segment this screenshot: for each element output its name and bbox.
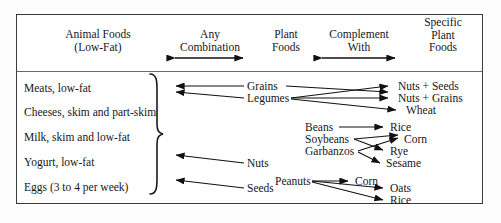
header-divider bbox=[17, 71, 482, 72]
grouping-brace bbox=[146, 72, 166, 196]
node-nuts: Nuts bbox=[247, 157, 269, 169]
node-nuts-seeds: Nuts + Seeds bbox=[398, 80, 459, 92]
node-rice-upper: Rice bbox=[390, 121, 411, 133]
list-item-yogurt: Yogurt, low-fat bbox=[24, 156, 94, 168]
node-legumes: Legumes bbox=[247, 92, 289, 104]
list-item-eggs: Eggs (3 to 4 per week) bbox=[24, 181, 128, 193]
node-seeds: Seeds bbox=[247, 182, 274, 194]
node-rye: Rye bbox=[390, 145, 408, 157]
list-item-meats: Meats, low-fat bbox=[24, 82, 91, 94]
header-plant-foods: Plant Foods bbox=[255, 28, 317, 53]
header-complement-with: Complement With bbox=[313, 28, 405, 53]
list-item-cheeses: Cheeses, skim and part-skim bbox=[24, 106, 156, 118]
protein-complementing-diagram: Animal Foods (Low-Fat) Any Combination P… bbox=[0, 0, 501, 223]
node-grains: Grains bbox=[247, 80, 278, 92]
node-corn-lower: Corn bbox=[355, 175, 378, 187]
node-garbanzos: Garbanzos bbox=[305, 145, 354, 157]
header-specific-plant-foods: Specific Plant Foods bbox=[410, 16, 476, 54]
node-oats: Oats bbox=[390, 182, 411, 194]
list-item-milk: Milk, skim and low-fat bbox=[24, 131, 130, 143]
node-soybeans: Soybeans bbox=[305, 133, 349, 145]
node-rice-lower: Rice bbox=[390, 194, 411, 206]
header-any-combination: Any Combination bbox=[168, 28, 252, 53]
node-beans: Beans bbox=[305, 121, 333, 133]
node-nuts-grains: Nuts + Grains bbox=[398, 92, 463, 104]
node-corn-upper: Corn bbox=[404, 133, 427, 145]
header-animal-foods: Animal Foods (Low-Fat) bbox=[28, 28, 168, 53]
node-sesame: Sesame bbox=[386, 157, 421, 169]
node-wheat: Wheat bbox=[406, 104, 436, 116]
node-peanuts: Peanuts bbox=[275, 175, 311, 187]
